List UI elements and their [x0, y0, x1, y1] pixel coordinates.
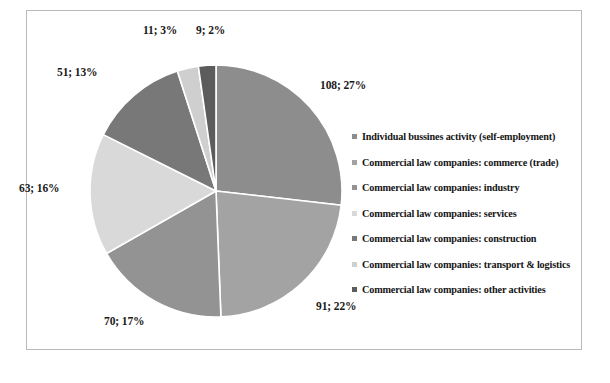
- legend-item: Commercial law companies: other activiti…: [352, 277, 584, 303]
- pie-data-label: 51; 13%: [57, 66, 98, 78]
- legend-item-label: Commercial law companies: commerce (trad…: [362, 157, 558, 168]
- legend-item: Individual bussines activity (self-emplo…: [352, 124, 584, 150]
- legend-item-label: Commercial law companies: other activiti…: [362, 284, 545, 295]
- legend-item: Commercial law companies: commerce (trad…: [352, 150, 584, 176]
- legend-item: Commercial law companies: construction: [352, 226, 584, 252]
- legend-item-label: Commercial law companies: industry: [362, 182, 519, 193]
- legend-item-label: Commercial law companies: construction: [362, 233, 536, 244]
- legend-swatch-icon: [352, 160, 357, 165]
- legend-item: Commercial law companies: industry: [352, 175, 584, 201]
- pie-slice-group: [90, 65, 342, 317]
- pie-data-label: 70; 17%: [104, 315, 145, 327]
- chart-legend: Individual bussines activity (self-emplo…: [352, 124, 584, 303]
- legend-item-label: Commercial law companies: services: [362, 208, 517, 219]
- legend-item: Commercial law companies: services: [352, 201, 584, 227]
- pie-data-label: 9; 2%: [196, 24, 225, 36]
- pie-data-label: 63; 16%: [19, 182, 60, 194]
- pie-data-label: 11; 3%: [143, 24, 177, 36]
- pie-slice: [216, 191, 341, 317]
- legend-swatch-icon: [352, 185, 357, 190]
- legend-item-label: Individual bussines activity (self-emplo…: [362, 131, 555, 142]
- pie-data-label: 108; 27%: [320, 79, 366, 91]
- chart-screenshot: 108; 27%91; 22%70; 17%63; 16%51; 13%11; …: [0, 0, 610, 383]
- legend-swatch-icon: [352, 134, 357, 139]
- legend-item: Commercial law companies: transport & lo…: [352, 252, 584, 278]
- legend-item-label: Commercial law companies: transport & lo…: [362, 259, 570, 270]
- legend-swatch-icon: [352, 211, 357, 216]
- legend-swatch-icon: [352, 262, 357, 267]
- legend-swatch-icon: [352, 236, 357, 241]
- legend-swatch-icon: [352, 287, 357, 292]
- pie-data-label: 91; 22%: [316, 300, 357, 312]
